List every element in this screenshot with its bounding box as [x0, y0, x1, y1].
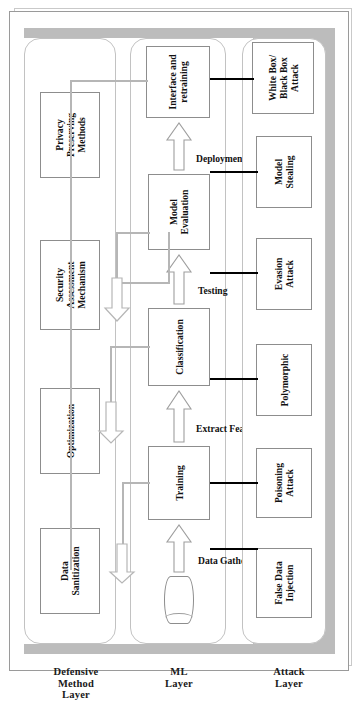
link-false-data-injection [210, 548, 258, 550]
layer-ml-label: ML Layer [156, 666, 202, 689]
link-whitebox-blackbox [210, 78, 254, 80]
arrow-to-security-assessment [104, 278, 130, 322]
rail-classification-horz [110, 346, 112, 408]
layer-attack-label: Attack Layer [266, 666, 312, 689]
link-privacy-preserving-vert [70, 80, 148, 82]
link-poisoning-attack [210, 482, 258, 484]
node-false-data-injection[interactable]: False Data Injection [256, 548, 312, 618]
arrow-deployment [166, 122, 192, 170]
arrow-to-optimization [98, 402, 124, 444]
node-interface-retraining[interactable]: Interface and retraining [146, 46, 210, 118]
node-model-evaluation[interactable]: Model Evaluation [148, 174, 210, 250]
diagram-frame: Defensive Method Layer Data Sanitization… [9, 11, 349, 671]
node-model-stealing[interactable]: Model Stealing [256, 136, 312, 208]
arrow-data-gathering [166, 524, 192, 572]
layer-defensive-label: Defensive Method Layer [46, 666, 106, 701]
datastore-icon [164, 576, 194, 624]
rail-training-vert [122, 482, 150, 484]
link-model-stealing [210, 171, 258, 173]
link-evasion-attack [210, 272, 258, 274]
arrow-extract-features [166, 390, 192, 442]
node-classification[interactable]: Classification [148, 308, 210, 386]
rail-training-horz [122, 482, 124, 550]
link-polymorphic [210, 378, 258, 380]
rail-security-vert-right [116, 232, 150, 234]
link-privacy-preserving-horz [70, 80, 72, 570]
node-training[interactable]: Training [148, 446, 210, 520]
arrow-to-data-sanitization [108, 544, 136, 584]
node-polymorphic[interactable]: Polymorphic [256, 344, 312, 416]
node-poisoning-attack[interactable]: Poisoning Attack [256, 448, 312, 518]
rail-security-horz-top [116, 232, 118, 284]
band-right-edge [24, 28, 335, 38]
band-left-edge [24, 644, 335, 654]
edge-label-testing: Testing [198, 286, 228, 296]
rail-classification-vert [110, 346, 150, 348]
node-evasion-attack[interactable]: Evasion Attack [256, 238, 312, 310]
rail-security-horz-bottom [168, 232, 170, 284]
edge-label-deployment: Deployment [196, 154, 246, 164]
rotated-figure-wrapper: Defensive Method Layer Data Sanitization… [9, 11, 349, 671]
node-whitebox-blackbox[interactable]: White Box/ Black Box Attack [252, 42, 314, 114]
